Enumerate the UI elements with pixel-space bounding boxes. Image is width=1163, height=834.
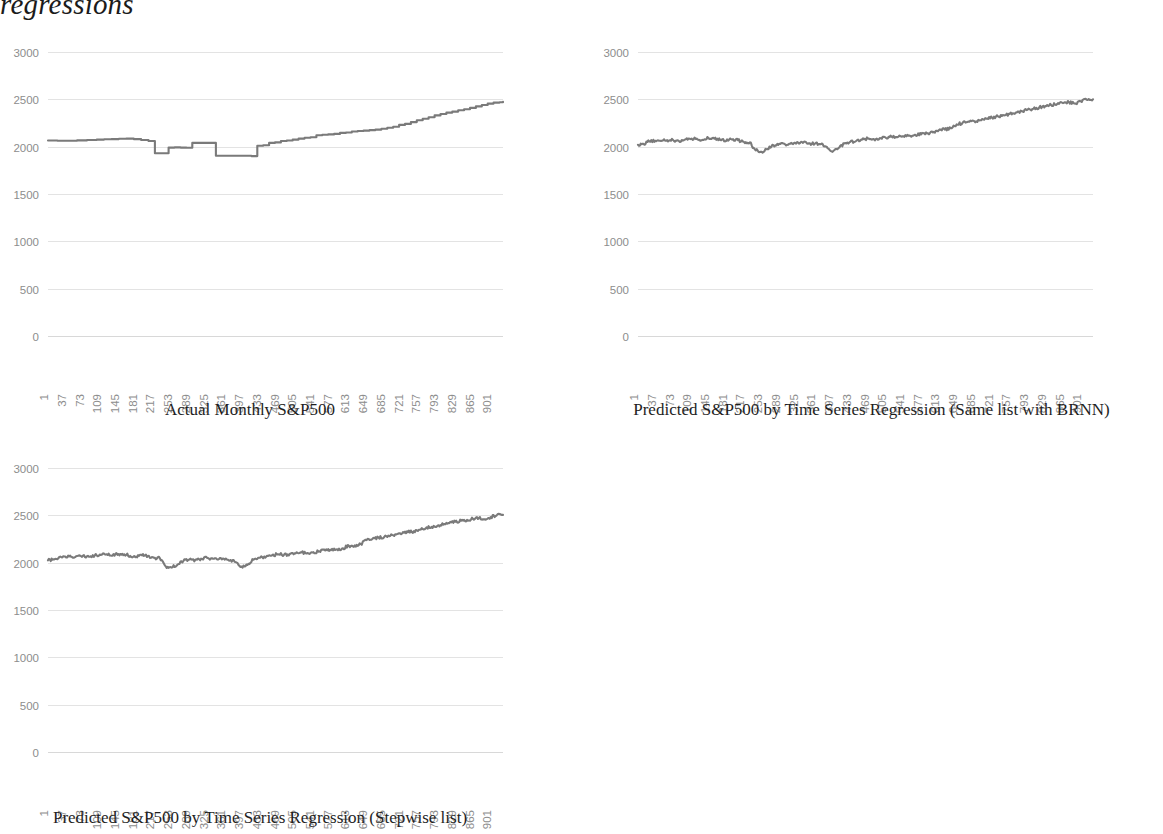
y-axis-tick-label: 2500 [13,510,39,522]
chart-caption-stepwise: Predicted S&P500 by Time Series Regressi… [0,808,520,828]
y-axis-tick-label: 2500 [13,94,39,106]
chart-predicted-sp500-stepwise: 3000250020001500100050001377310914518121… [0,450,511,814]
gridlines: 300025002000150010005000 [13,463,503,759]
y-axis-tick-label: 1000 [13,236,39,248]
y-axis-tick-label: 500 [20,700,39,712]
y-axis-tick-label: 0 [33,747,39,759]
y-axis-tick-label: 0 [33,331,39,343]
y-axis-tick-label: 2000 [603,142,629,154]
series-line [638,99,1093,153]
page-title: regressions [0,0,134,21]
chart-caption-brnn: Predicted S&P500 by Time Series Regressi… [580,400,1163,420]
y-axis-tick-label: 3000 [13,463,39,475]
chart-actual-monthly-sp500: 3000250020001500100050001377310914518121… [0,34,511,398]
y-axis-tick-label: 1000 [603,236,629,248]
series-line [48,514,503,568]
y-axis-tick-label: 1500 [13,605,39,617]
gridlines: 300025002000150010005000 [13,47,503,343]
y-axis-tick-label: 1500 [603,189,629,201]
y-axis-tick-label: 2500 [603,94,629,106]
y-axis-tick-label: 500 [610,284,629,296]
gridlines: 300025002000150010005000 [603,47,1093,343]
y-axis-tick-label: 2000 [13,558,39,570]
chart-svg: 3000250020001500100050001377310914518121… [0,450,511,814]
y-axis-tick-label: 3000 [603,47,629,59]
chart-caption-actual: Actual Monthly S&P500 [0,400,500,420]
chart-svg: 3000250020001500100050001377310914518121… [590,34,1101,398]
y-axis-tick-label: 0 [623,331,629,343]
chart-predicted-sp500-brnn: 3000250020001500100050001377310914518121… [590,34,1101,398]
y-axis-tick-label: 3000 [13,47,39,59]
y-axis-tick-label: 500 [20,284,39,296]
y-axis-tick-label: 1500 [13,189,39,201]
y-axis-tick-label: 1000 [13,652,39,664]
chart-svg: 3000250020001500100050001377310914518121… [0,34,511,398]
y-axis-tick-label: 2000 [13,142,39,154]
